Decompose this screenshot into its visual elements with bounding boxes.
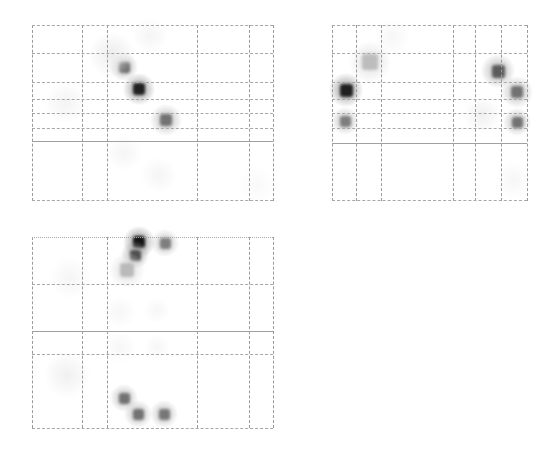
grid-vertical-line <box>197 237 198 428</box>
heat-spot <box>160 238 171 249</box>
grid-horizontal-line <box>32 82 273 83</box>
grid-vertical-line <box>249 237 250 428</box>
heat-spot <box>120 263 134 277</box>
grid-vertical-line <box>32 237 33 428</box>
heat-spot <box>133 409 144 420</box>
grid-horizontal-line <box>32 99 273 100</box>
heat-spot <box>512 117 523 128</box>
midline-solid <box>32 141 273 142</box>
grid-horizontal-line <box>32 25 273 26</box>
midline-solid <box>332 143 527 144</box>
grid-horizontal-line <box>32 284 273 285</box>
heat-spot-halo <box>45 82 87 124</box>
grid-horizontal-line <box>332 53 527 54</box>
grid-horizontal-line <box>32 354 273 355</box>
heat-spot <box>133 83 145 95</box>
heat-spot <box>362 54 378 70</box>
panel-3 <box>32 237 273 428</box>
grid-horizontal-line <box>32 128 273 129</box>
grid-horizontal-line <box>32 428 273 429</box>
grid-horizontal-line <box>32 237 273 238</box>
grid-horizontal-line <box>332 25 527 26</box>
grid-vertical-line <box>273 237 274 428</box>
heat-spot <box>160 114 172 126</box>
grid-horizontal-line <box>332 82 527 83</box>
heat-spot-halo <box>44 352 91 399</box>
grid-vertical-line <box>107 237 108 428</box>
grid-horizontal-line <box>332 200 527 201</box>
grid-vertical-line <box>273 25 274 201</box>
grid-horizontal-line <box>32 113 273 114</box>
heat-spot-halo <box>141 157 177 193</box>
heat-spot-halo <box>104 331 135 362</box>
heat-spot <box>119 393 130 404</box>
heat-spot <box>159 409 170 420</box>
heat-spot <box>511 86 523 98</box>
grid-horizontal-line <box>332 99 527 100</box>
heat-spot <box>340 84 353 97</box>
panel-2 <box>332 25 527 201</box>
panel-1 <box>32 25 273 201</box>
heat-spot <box>492 65 505 78</box>
heat-spot-halo <box>239 167 275 203</box>
grid-horizontal-line <box>332 128 527 129</box>
heat-spot-halo <box>132 17 168 53</box>
midline-solid <box>32 331 273 332</box>
grid-horizontal-line <box>32 53 273 54</box>
heat-spot-halo <box>104 296 135 327</box>
heat-spot-halo <box>144 297 170 323</box>
heat-spot-halo <box>144 334 170 360</box>
heat-spot <box>340 116 351 127</box>
heat-spot-halo <box>49 257 91 299</box>
grid-vertical-line <box>82 237 83 428</box>
grid-horizontal-line <box>332 113 527 114</box>
grid-horizontal-line <box>32 200 273 201</box>
grid-vertical-line <box>527 25 528 201</box>
